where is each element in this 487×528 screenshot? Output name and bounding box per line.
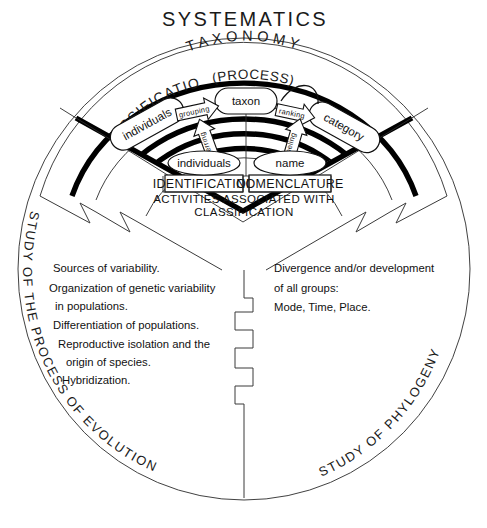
- oval-individuals-bottom-label: individuals: [177, 157, 231, 169]
- right-line-2: Mode, Time, Place.: [274, 301, 371, 313]
- left-line-3: Differentiation of populations.: [53, 319, 199, 331]
- left-line-1: Organization of genetic variability: [49, 282, 216, 294]
- left-line-5: origin of species.: [66, 356, 151, 368]
- right-line-0: Divergence and/or development: [274, 262, 435, 274]
- left-line-0: Sources of variability.: [53, 262, 160, 274]
- left-line-2: in populations.: [55, 300, 128, 312]
- arc-label-taxonomy: TAXONOMY: [184, 28, 306, 55]
- activities-line1: ACTIVITIES ASSOCIATED WITH: [153, 193, 334, 205]
- systematics-diagram: SYSTEMATICS TAXONOMY CLASSIFICATION (PRO…: [0, 0, 487, 528]
- oval-taxon-label: taxon: [232, 95, 260, 107]
- activities-line2: CLASSIFICATION: [194, 206, 293, 218]
- right-text-block: Divergence and/or development of all gro…: [274, 262, 435, 313]
- right-line-1: of all groups:: [274, 282, 339, 294]
- page-title: SYSTEMATICS: [162, 8, 328, 30]
- torn-divider-vertical: [235, 270, 253, 498]
- box-nomenclature: NOMENCLATURE: [236, 175, 344, 192]
- oval-individuals-bottom: individuals: [168, 151, 240, 175]
- oval-taxon: taxon: [215, 88, 277, 114]
- oval-name: name: [254, 151, 326, 175]
- box-nomenclature-label: NOMENCLATURE: [236, 177, 344, 191]
- left-line-4: Reproductive isolation and the: [58, 338, 210, 350]
- diagram-canvas: SYSTEMATICS TAXONOMY CLASSIFICATION (PRO…: [0, 0, 487, 528]
- oval-category: category: [304, 97, 384, 157]
- rim-label-right: STUDY OF PHYLOGENY: [316, 346, 443, 480]
- left-text-block: Sources of variability. Organization of …: [49, 262, 216, 386]
- oval-name-label: name: [276, 157, 305, 169]
- left-line-6: Hybridization.: [62, 374, 130, 386]
